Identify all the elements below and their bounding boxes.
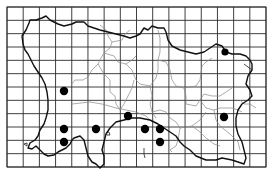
record-dot — [221, 48, 228, 55]
record-dot — [156, 125, 164, 133]
record-dot — [60, 125, 68, 133]
record-dot — [60, 87, 68, 95]
record-dot — [141, 125, 149, 133]
distribution-map — [0, 0, 275, 183]
record-dot — [124, 112, 132, 120]
record-dot — [60, 138, 68, 146]
record-dot — [156, 138, 164, 146]
record-dot — [220, 113, 228, 121]
record-dot — [92, 125, 100, 133]
